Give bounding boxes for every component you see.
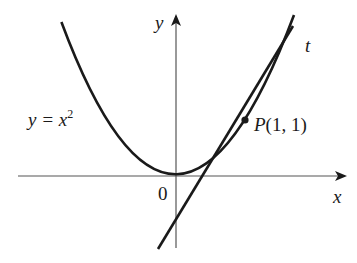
- y-axis-label: y: [153, 12, 164, 33]
- point-p-dot: [241, 116, 248, 123]
- point-p-name: P: [253, 114, 266, 135]
- tangent-line: [158, 26, 293, 249]
- point-p-coords: (1, 1): [266, 114, 307, 136]
- curve-label-exponent: 2: [67, 107, 73, 121]
- parabola-curve: [61, 15, 294, 174]
- parabola-tangent-diagram: y x 0 y = x2 P(1, 1) t: [0, 0, 357, 263]
- origin-label: 0: [158, 183, 168, 204]
- tangent-label: t: [305, 35, 311, 56]
- curve-label-lhs: y =: [26, 109, 59, 130]
- x-axis-label: x: [332, 186, 342, 207]
- point-p-label: P(1, 1): [253, 114, 307, 136]
- curve-label: y = x2: [26, 107, 73, 130]
